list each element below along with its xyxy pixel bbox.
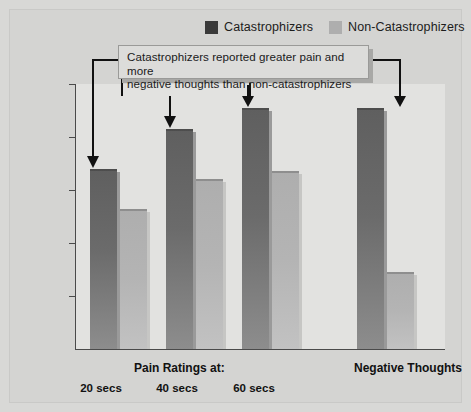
y-tick-10 [69,84,76,85]
chart-figure: Catastrophizers Non-Catastrophizers Rati… [0,0,471,412]
y-tick-4 [69,243,76,244]
x-tick-label-40-secs: 40 secs [142,382,212,394]
bar-face [242,108,269,349]
bar-face [196,179,223,349]
legend-item-catastrophizers[interactable]: Catastrophizers [205,20,313,34]
bar-face [272,171,299,349]
bar-top-edge [357,108,384,110]
x-group-title-pain-ratings: Pain Ratings at: [134,361,225,375]
bar-40-secs-catastrophizers[interactable] [166,129,193,349]
bar-60-secs-non-catastrophizers[interactable] [272,171,299,349]
bar-negative-thoughts-catastrophizers[interactable] [357,108,384,349]
annotation-line-1: Catastrophizers reported greater pain an… [127,50,360,77]
bar-side-edge [414,275,417,349]
bar-top-edge [242,108,269,110]
legend-swatch-icon [205,21,218,34]
legend-swatch-icon [329,21,342,34]
y-tick-8 [69,137,76,138]
bar-top-edge [90,169,117,171]
bar-side-edge [147,212,150,349]
bar-top-edge [196,179,223,181]
bar-20-secs-catastrophizers[interactable] [90,169,117,349]
bar-top-edge [166,129,193,131]
x-group-title-negative-thoughts: Negative Thoughts [354,361,462,375]
x-tick-label-20-secs: 20 secs [66,382,136,394]
plot-inner [76,84,445,349]
bar-face [387,272,414,349]
plot-area [75,84,445,350]
bar-top-edge [120,209,147,211]
bar-negative-thoughts-non-catastrophizers[interactable] [387,272,414,349]
legend-label-catastrophizers: Catastrophizers [224,20,313,34]
bar-top-edge [272,171,299,173]
bar-40-secs-non-catastrophizers[interactable] [196,179,223,349]
annotation-callout-text: Catastrophizers reported greater pain an… [127,50,360,91]
y-tick-2 [69,296,76,297]
bar-face [120,209,147,349]
legend-item-non-catastrophizers[interactable]: Non-Catastrophizers [329,20,465,34]
annotation-callout: Catastrophizers reported greater pain an… [118,45,369,79]
bar-top-edge [387,272,414,274]
bar-side-edge [223,182,226,349]
bar-face [90,169,117,349]
bar-20-secs-non-catastrophizers[interactable] [120,209,147,349]
x-tick-label-60-secs: 60 secs [219,382,289,394]
annotation-line-2: negative thoughts than non-catastrophize… [127,77,360,91]
bar-face [166,129,193,349]
y-tick-6 [69,190,76,191]
chart-legend: Catastrophizers Non-Catastrophizers [205,19,465,35]
legend-label-non-catastrophizers: Non-Catastrophizers [348,20,465,34]
bar-side-edge [299,174,302,349]
bar-60-secs-catastrophizers[interactable] [242,108,269,349]
bar-face [357,108,384,349]
